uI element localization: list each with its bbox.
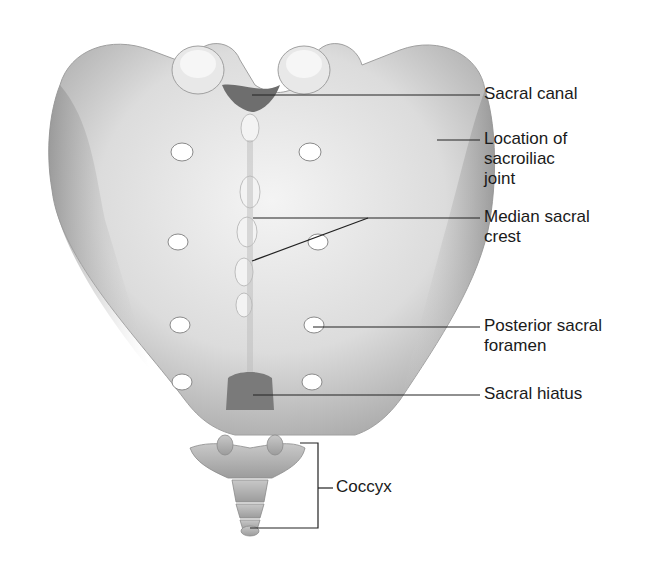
- superior-articular-process-left: [172, 46, 224, 94]
- label-median-sacral-crest: Median sacral crest: [484, 207, 590, 247]
- label-sacral-hiatus: Sacral hiatus: [484, 384, 582, 404]
- coccyx-bone: [190, 435, 305, 536]
- sacral-hiatus-opening: [226, 372, 274, 410]
- label-sacroiliac-joint: Location of sacroiliac joint: [484, 129, 567, 189]
- label-coccyx: Coccyx: [336, 477, 392, 497]
- label-sacral-canal: Sacral canal: [484, 84, 578, 104]
- label-posterior-sacral-foramen: Posterior sacral foramen: [484, 316, 602, 356]
- superior-articular-process-right: [278, 46, 330, 94]
- sacrum-bone: [49, 44, 495, 435]
